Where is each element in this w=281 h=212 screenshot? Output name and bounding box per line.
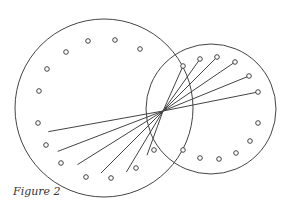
dot-marker xyxy=(181,148,186,153)
dot-marker xyxy=(256,121,261,126)
dot-marker xyxy=(113,38,118,43)
dot-marker xyxy=(217,157,222,162)
dot-marker xyxy=(233,60,238,65)
dot-marker xyxy=(215,55,220,60)
dot-marker xyxy=(198,156,203,161)
dot-marker xyxy=(109,176,114,181)
overlapping-circles-diagram xyxy=(0,0,281,212)
dot-marker xyxy=(152,148,157,153)
dot-marker xyxy=(181,64,186,69)
dot-marker xyxy=(198,57,203,62)
ray-line xyxy=(58,111,163,151)
dot-marker xyxy=(45,67,50,72)
dot-marker xyxy=(36,121,41,126)
dot-marker xyxy=(37,89,42,94)
dot-marker xyxy=(86,39,91,44)
dot-marker xyxy=(138,47,143,52)
dot-marker xyxy=(134,166,139,171)
dot-marker xyxy=(247,74,252,79)
dot-markers xyxy=(36,38,261,181)
dot-marker xyxy=(44,143,49,148)
dot-marker xyxy=(84,175,89,180)
dot-marker xyxy=(64,50,69,55)
dot-marker xyxy=(248,139,253,144)
figure-caption: Figure 2 xyxy=(13,185,61,198)
dot-marker xyxy=(59,161,64,166)
ray-lines xyxy=(48,57,258,173)
dot-marker xyxy=(234,151,239,156)
dot-marker xyxy=(256,90,261,95)
